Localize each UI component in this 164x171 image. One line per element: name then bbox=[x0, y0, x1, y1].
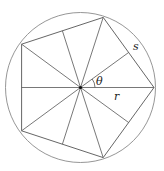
r-label: r bbox=[114, 90, 120, 103]
pentagon-diagram: θ r s bbox=[0, 0, 164, 171]
center-point bbox=[79, 86, 82, 89]
theta-label: θ bbox=[96, 75, 103, 88]
theta-arc bbox=[92, 79, 95, 88]
s-label: s bbox=[133, 40, 139, 53]
